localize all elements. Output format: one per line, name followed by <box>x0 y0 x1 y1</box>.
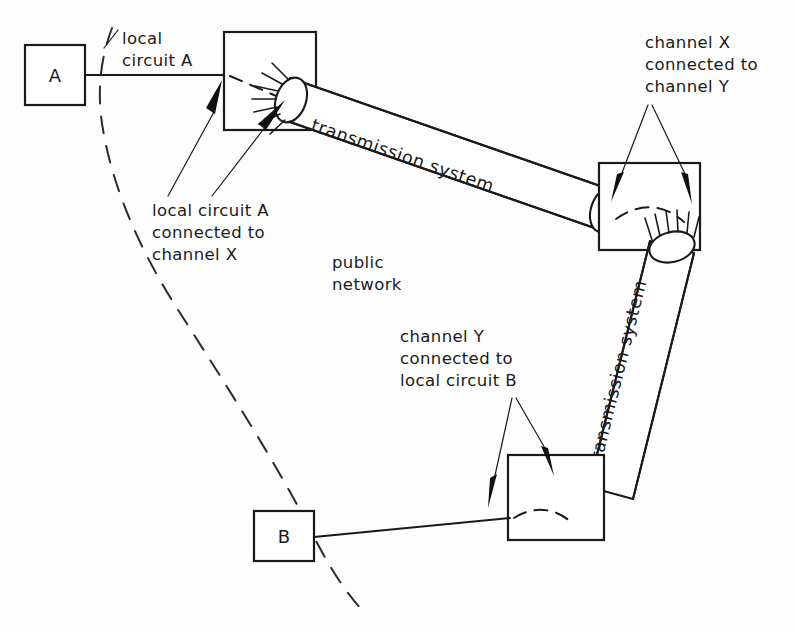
diagram-canvas: A local circuit A <box>0 0 795 632</box>
cy-connected-line2: connected to <box>400 349 513 368</box>
network-diagram: A local circuit A <box>0 0 795 632</box>
lc-a-connected-line1: local circuit A <box>152 201 269 220</box>
leader-line-lc-a-1 <box>168 112 214 196</box>
terminal-b-label: B <box>278 526 290 547</box>
exchange-box-bottom[interactable] <box>508 455 604 540</box>
cx-connected-line3: channel Y <box>645 77 730 96</box>
terminal-a-label: A <box>49 65 62 86</box>
leader-line-cy-2 <box>516 398 546 450</box>
public-network-label-line1: public <box>332 253 384 272</box>
cx-connected-line1: channel X <box>645 33 730 52</box>
lc-a-connected-line3: channel X <box>152 245 237 264</box>
arrow-head-cy-1 <box>488 474 497 508</box>
local-circuit-b-line <box>314 518 510 537</box>
cx-connected-line2: connected to <box>645 55 758 74</box>
cy-connected-line1: channel Y <box>400 327 485 346</box>
cy-connected-line3: local circuit B <box>400 371 517 390</box>
leader-line-lc-a-2 <box>212 126 266 196</box>
arrow-head-lc-a-1 <box>206 80 222 114</box>
public-network-label-line2: network <box>332 275 402 294</box>
local-circuit-a-label-line2: circuit A <box>122 51 193 70</box>
transmission-tube-upper-fill <box>292 80 605 230</box>
local-circuit-a-label-line1: local <box>122 29 162 48</box>
lc-a-connected-line2: connected to <box>152 223 265 242</box>
